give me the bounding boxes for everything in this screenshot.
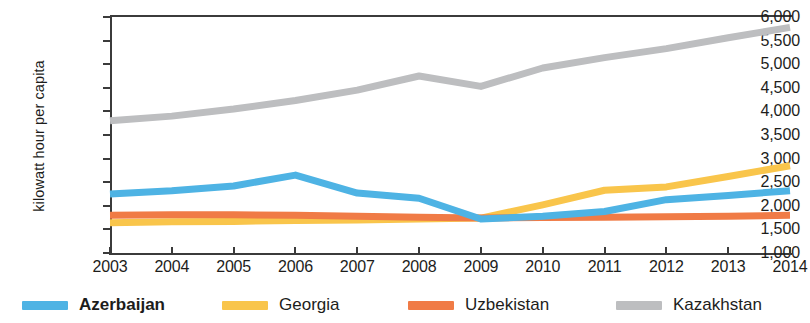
y-axis-tick-label: 4,500 bbox=[710, 79, 810, 97]
x-axis-tick-mark bbox=[665, 247, 667, 255]
y-axis-tick-label: 1,500 bbox=[710, 220, 810, 238]
x-axis-tick-mark bbox=[542, 247, 544, 255]
x-axis-tick-label: 2006 bbox=[260, 258, 330, 276]
y-axis-tick-label: 4,000 bbox=[710, 102, 810, 120]
y-axis-tick-label: 2,000 bbox=[710, 197, 810, 215]
y-axis-tick-mark bbox=[103, 63, 111, 65]
x-axis-tick-label: 2008 bbox=[384, 258, 454, 276]
legend-label-kazakhstan: Kazakhstan bbox=[673, 295, 762, 315]
x-axis-tick-mark bbox=[356, 247, 358, 255]
y-axis-tick-mark bbox=[103, 110, 111, 112]
legend-item-uzbekistan[interactable]: Uzbekistan bbox=[408, 295, 549, 315]
y-axis-tick-label: 3,000 bbox=[710, 150, 810, 168]
x-axis-tick-mark bbox=[109, 247, 111, 255]
x-axis-tick-label: 2013 bbox=[693, 258, 763, 276]
legend-label-georgia: Georgia bbox=[279, 295, 339, 315]
line-chart-figure: kilowatt hour per capita 6,0005,5005,000… bbox=[0, 0, 810, 323]
x-axis-tick-mark bbox=[727, 247, 729, 255]
y-axis-tick-label: 3,500 bbox=[710, 126, 810, 144]
x-axis-tick-mark bbox=[294, 247, 296, 255]
legend-swatch-kazakhstan bbox=[616, 301, 662, 310]
y-axis-tick-mark bbox=[103, 40, 111, 42]
y-axis-tick-mark bbox=[103, 181, 111, 183]
x-axis-tick-label: 2014 bbox=[755, 258, 810, 276]
legend-swatch-georgia bbox=[222, 301, 268, 310]
x-axis-tick-mark bbox=[789, 247, 791, 255]
y-axis-tick-mark bbox=[103, 16, 111, 18]
y-axis-title: kilowatt hour per capita bbox=[31, 11, 47, 261]
x-axis-tick-mark bbox=[604, 247, 606, 255]
x-axis-tick-label: 2004 bbox=[137, 258, 207, 276]
x-axis-tick-mark bbox=[233, 247, 235, 255]
plot-area bbox=[110, 17, 792, 255]
y-axis-tick-label: 6,000 bbox=[710, 8, 810, 26]
legend-label-azerbaijan: Azerbaijan bbox=[79, 295, 165, 315]
chart-legend: AzerbaijanGeorgiaUzbekistanKazakhstan bbox=[22, 292, 810, 318]
x-axis-tick-mark bbox=[480, 247, 482, 255]
legend-item-georgia[interactable]: Georgia bbox=[222, 295, 339, 315]
y-axis-tick-mark bbox=[103, 228, 111, 230]
y-axis-tick-mark bbox=[103, 134, 111, 136]
legend-label-uzbekistan: Uzbekistan bbox=[465, 295, 549, 315]
legend-item-kazakhstan[interactable]: Kazakhstan bbox=[616, 295, 762, 315]
x-axis-tick-label: 2009 bbox=[446, 258, 516, 276]
x-axis-tick-mark bbox=[171, 247, 173, 255]
y-axis-tick-label: 5,000 bbox=[710, 55, 810, 73]
x-axis-tick-label: 2003 bbox=[75, 258, 145, 276]
x-axis-tick-label: 2010 bbox=[508, 258, 578, 276]
y-axis-tick-label: 5,500 bbox=[710, 32, 810, 50]
legend-swatch-uzbekistan bbox=[408, 301, 454, 310]
y-axis-tick-mark bbox=[103, 158, 111, 160]
x-axis-tick-label: 2012 bbox=[631, 258, 701, 276]
x-axis-tick-mark bbox=[418, 247, 420, 255]
legend-swatch-azerbaijan bbox=[22, 301, 68, 310]
legend-item-azerbaijan[interactable]: Azerbaijan bbox=[22, 295, 165, 315]
x-axis-tick-label: 2007 bbox=[322, 258, 392, 276]
y-axis-tick-label: 2,500 bbox=[710, 173, 810, 191]
x-axis-tick-label: 2005 bbox=[199, 258, 269, 276]
y-axis-tick-mark bbox=[103, 87, 111, 89]
y-axis-tick-mark bbox=[103, 205, 111, 207]
x-axis-tick-label: 2011 bbox=[570, 258, 640, 276]
